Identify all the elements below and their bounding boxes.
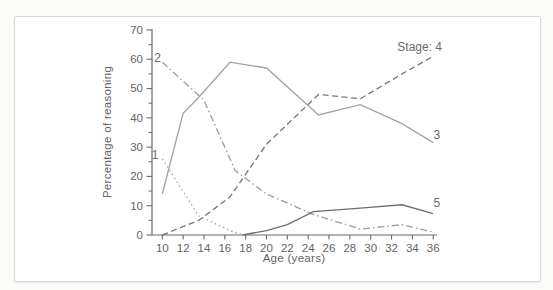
x-tick-label: 34 (406, 242, 419, 254)
y-tick-label: 30 (130, 141, 143, 153)
x-tick-label: 32 (385, 242, 398, 254)
x-tick-label: 10 (156, 242, 169, 254)
series-line-stage-3 (162, 62, 433, 194)
y-tick-label: 20 (130, 170, 143, 182)
series-label-1: 1 (152, 148, 159, 162)
series-line-stage-5 (243, 205, 434, 235)
line-chart: 0102030405060701012141618202224262830323… (0, 0, 553, 290)
y-tick-label: 70 (130, 24, 143, 36)
y-tick-label: 10 (130, 200, 143, 212)
x-tick-label: 36 (427, 242, 440, 254)
series-label-5: 5 (434, 196, 441, 210)
series-line-stage-2 (162, 62, 433, 232)
y-tick-label: 0 (137, 229, 143, 241)
y-tick-label: 40 (130, 112, 143, 124)
series-label-stage-4: Stage: 4 (397, 40, 442, 54)
x-tick-label: 12 (177, 242, 190, 254)
x-tick-label: 14 (198, 242, 211, 254)
x-tick-label: 18 (239, 242, 252, 254)
x-tick-label: 28 (343, 242, 356, 254)
x-tick-label: 30 (364, 242, 377, 254)
y-tick-label: 50 (130, 82, 143, 94)
x-axis-title: Age (years) (263, 252, 326, 264)
x-tick-label: 16 (218, 242, 231, 254)
series-label-3: 3 (434, 128, 441, 142)
y-axis-title: Percentage of reasoning (101, 66, 113, 198)
series-label-2: 2 (154, 51, 161, 65)
y-tick-label: 60 (130, 53, 143, 65)
